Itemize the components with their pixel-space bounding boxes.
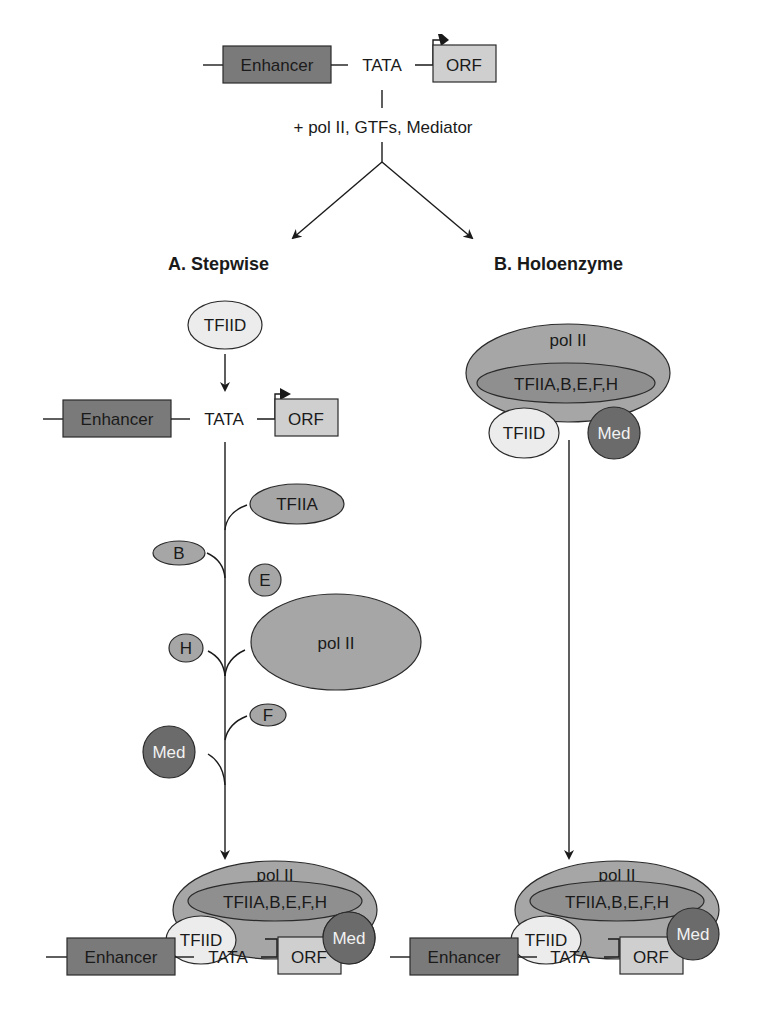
holoenzyme-title: B. Holoenzyme (494, 254, 623, 274)
svg-text:TFIIA,B,E,F,H: TFIIA,B,E,F,H (565, 893, 669, 912)
arrow-to-holoenzyme (382, 162, 472, 238)
arrow-to-stepwise (293, 162, 382, 238)
holoenzyme-pathway: pol II TFIIA,B,E,F,H TFIID Med pol II TF… (390, 324, 719, 975)
svg-text:TFIIA,B,E,F,H: TFIIA,B,E,F,H (514, 375, 618, 394)
svg-text:TFIIA,B,E,F,H: TFIIA,B,E,F,H (223, 893, 327, 912)
stepwise-pathway: TFIID Enhancer TATA ORF TFIIA B E pol II… (43, 301, 421, 975)
svg-text:TATA: TATA (204, 410, 244, 429)
transcription-initiation-diagram: Enhancer TATA ORF + pol II, GTFs, Mediat… (0, 0, 758, 1018)
svg-text:E: E (259, 571, 270, 590)
svg-text:Enhancer: Enhancer (85, 948, 158, 967)
enhancer-label: Enhancer (241, 56, 314, 75)
orf-label: ORF (446, 56, 482, 75)
svg-text:TFIID: TFIID (204, 316, 247, 335)
svg-text:B: B (173, 544, 184, 563)
svg-text:ORF: ORF (288, 410, 324, 429)
tata-label: TATA (362, 56, 402, 75)
svg-text:H: H (180, 639, 192, 658)
svg-text:pol II: pol II (318, 634, 355, 653)
svg-text:Med: Med (152, 743, 185, 762)
svg-text:F: F (263, 706, 273, 725)
svg-text:Med: Med (597, 424, 630, 443)
svg-text:TATA: TATA (208, 948, 248, 967)
svg-text:ORF: ORF (291, 948, 327, 967)
top-gene: Enhancer TATA ORF (203, 34, 496, 83)
svg-text:Enhancer: Enhancer (81, 410, 154, 429)
svg-text:Med: Med (332, 929, 365, 948)
stepwise-title: A. Stepwise (168, 254, 269, 274)
svg-text:TFIIA: TFIIA (276, 495, 318, 514)
svg-text:ORF: ORF (633, 948, 669, 967)
svg-text:Med: Med (676, 925, 709, 944)
step-label: + pol II, GTFs, Mediator (293, 118, 472, 137)
svg-text:pol II: pol II (550, 331, 587, 350)
svg-text:TFIID: TFIID (503, 424, 546, 443)
svg-text:TATA: TATA (550, 948, 590, 967)
svg-text:Enhancer: Enhancer (428, 948, 501, 967)
